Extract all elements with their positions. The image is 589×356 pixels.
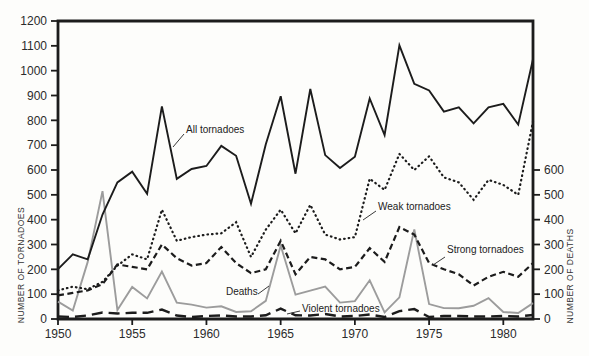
leader-strong-tornadoes — [433, 257, 445, 265]
annotation-weak-tornadoes: Weak tornadoes — [378, 202, 451, 212]
series-all-tornadoes — [58, 45, 533, 269]
x-axis-tick-label: 1950 — [45, 327, 72, 341]
left-axis-tick-label: 400 — [27, 213, 47, 227]
x-axis-tick-label: 1980 — [490, 327, 517, 341]
leader-all-tornadoes — [173, 134, 184, 147]
series-strong-tornadoes — [58, 227, 533, 295]
left-axis-tick-label: 1000 — [20, 64, 47, 78]
right-axis-tick-label: 600 — [544, 163, 564, 177]
x-axis-tick-label: 1955 — [119, 327, 146, 341]
left-axis-tick-label: 700 — [27, 138, 47, 152]
left-axis-tick-label: 100 — [27, 287, 47, 301]
right-axis-tick-label: 100 — [544, 287, 564, 301]
x-axis-tick-label: 1970 — [342, 327, 369, 341]
left-axis-tick-label: 800 — [27, 114, 47, 128]
left-axis-tick-label: 1200 — [20, 14, 47, 28]
x-axis-tick-label: 1975 — [416, 327, 443, 341]
left-axis-tick-label: 200 — [27, 263, 47, 277]
right-axis-tick-label: 0 — [544, 312, 551, 326]
right-axis-tick-label: 300 — [544, 238, 564, 252]
left-axis-tick-label: 900 — [27, 89, 47, 103]
tornado-statistics-figure: 0100200300400500600700800900100011001200… — [0, 0, 589, 356]
right-axis-tick-label: 500 — [544, 188, 564, 202]
series-weak-tornadoes — [58, 122, 533, 291]
x-axis-tick-label: 1965 — [267, 327, 294, 341]
right-axis-tick-label: 400 — [544, 213, 564, 227]
annotation-violent-tornadoes: Violent tornadoes — [302, 304, 380, 314]
left-axis-tick-label: 0 — [40, 312, 47, 326]
series-violent-tornadoes — [58, 309, 533, 317]
left-axis-tick-label: 300 — [27, 238, 47, 252]
x-axis-tick-label: 1960 — [193, 327, 220, 341]
left-axis-tick-label: 1100 — [21, 39, 47, 53]
leader-weak-tornadoes — [363, 211, 376, 220]
left-axis-tick-label: 500 — [27, 188, 47, 202]
annotation-deaths: Deaths — [226, 287, 258, 297]
left-axis-tick-label: 600 — [27, 163, 47, 177]
left-axis-title: NUMBER OF TORNADOES — [17, 207, 26, 323]
right-axis-tick-label: 200 — [544, 263, 564, 277]
right-axis-title: NUMBER OF DEATHS — [566, 228, 575, 323]
annotation-all-tornadoes: All tornadoes — [186, 125, 244, 135]
annotation-strong-tornadoes: Strong tornadoes — [447, 245, 524, 255]
chart-canvas: 0100200300400500600700800900100011001200… — [0, 0, 589, 356]
